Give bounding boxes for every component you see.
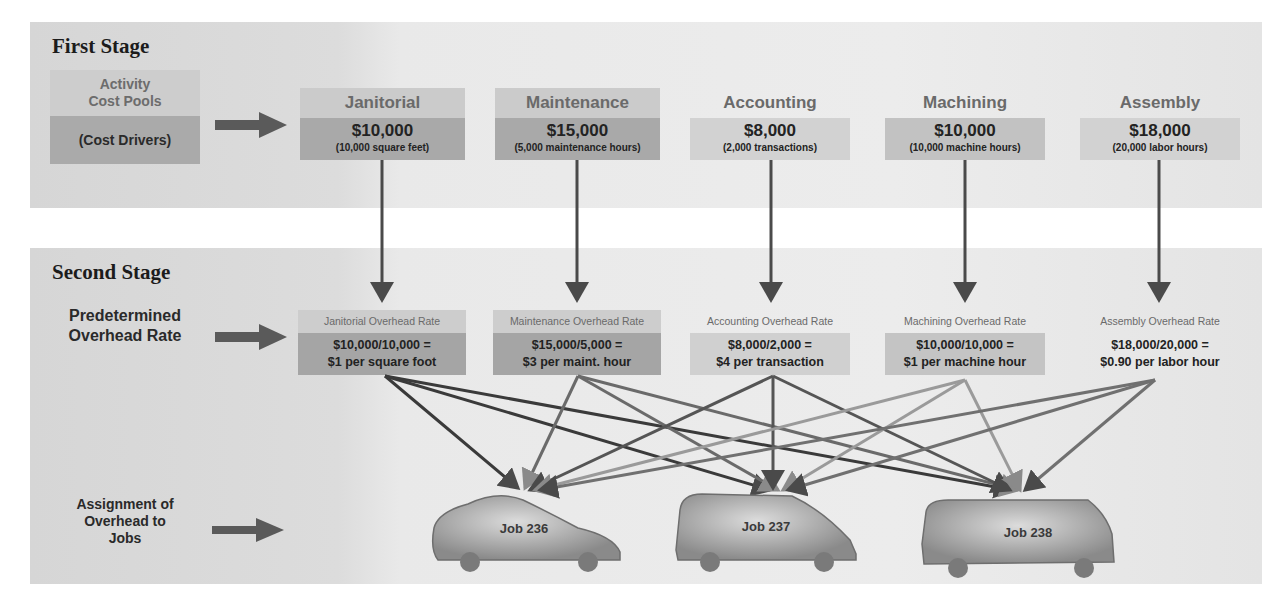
job-label-236: Job 236 bbox=[474, 521, 574, 536]
job-label-238: Job 238 bbox=[978, 525, 1078, 540]
vertical-arrows bbox=[382, 160, 1159, 300]
job-label-237: Job 237 bbox=[716, 519, 816, 534]
